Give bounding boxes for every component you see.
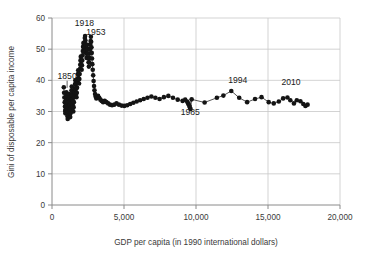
data-point [90,62,95,67]
data-point [145,95,150,100]
y-tick-label: 20 [36,139,46,148]
x-axis-label: GDP per capita (in 1990 international do… [114,238,278,247]
data-point [305,102,310,107]
data-point [281,96,286,101]
data-point [77,72,82,77]
data-point [253,97,258,102]
y-tick-label: 60 [36,14,46,23]
data-point [91,79,96,84]
x-tick-label: 5,000 [114,213,135,222]
data-point [202,100,207,105]
data-point [74,95,79,100]
data-point [166,94,171,99]
data-point [266,100,271,105]
data-point [71,105,76,110]
data-point [259,95,264,100]
data-point [277,99,282,104]
annotations: 185019181953198519942010 [58,18,301,117]
data-point [75,86,80,91]
data-point [175,97,180,102]
data-point [221,93,226,98]
data-point [89,39,94,44]
data-point [215,95,220,100]
data-point [271,101,276,106]
y-tick-label: 40 [36,76,46,85]
data-point [171,95,176,100]
data-point [83,38,88,43]
data-point [288,98,293,103]
data-point [89,45,94,50]
data-point [77,77,82,82]
gini-vs-gdp-scatter-chart: 0102030405060 05,00010,00015,00020,000 1… [0,0,371,262]
y-axis-label: Gini of disposable per capita income [7,46,16,178]
data-point [74,91,79,96]
data-point [245,100,250,105]
annotation-label-1850: 1850 [58,71,77,81]
y-tick-label: 50 [36,45,46,54]
data-point [72,100,77,105]
data-point [90,56,95,61]
annotation-label-1985: 1985 [181,107,200,117]
y-tick-label: 0 [40,201,45,210]
data-point [80,63,85,68]
y-tick-label: 30 [36,108,46,117]
annotation-label-1994: 1994 [228,75,247,85]
data-point [149,94,154,99]
y-axis-ticks: 0102030405060 [36,14,52,210]
data-point [229,89,234,94]
data-point [62,85,67,90]
annotation-label-2010: 2010 [281,77,300,87]
data-point [77,81,82,86]
data-point [79,67,84,72]
x-tick-label: 15,000 [255,213,280,222]
x-tick-label: 0 [50,213,55,222]
x-tick-label: 20,000 [327,213,352,222]
data-point [162,95,167,100]
x-tick-label: 10,000 [183,213,208,222]
x-axis-ticks: 05,00010,00015,00020,000 [50,205,353,222]
data-point [237,95,242,100]
data-point [157,97,162,102]
data-point [71,109,76,114]
data-point [92,84,97,89]
data-point [90,67,95,72]
y-tick-label: 10 [36,170,46,179]
data-point [80,58,85,63]
data-point [89,51,94,56]
data-point [91,73,96,78]
data-point [153,95,158,100]
chart-figure: 0102030405060 05,00010,00015,00020,000 1… [0,0,371,262]
annotation-label-1953: 1953 [86,27,105,37]
